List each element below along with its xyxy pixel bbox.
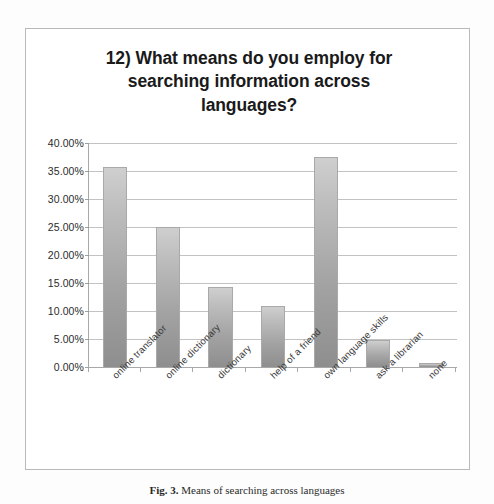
y-axis-tick-label: 5.00%: [54, 333, 84, 345]
figure-caption-label: Fig. 3.: [150, 484, 179, 496]
figure-caption: Fig. 3. Means of searching across langua…: [0, 484, 494, 496]
x-axis-labels: online translatoronline dictionarydictio…: [88, 373, 456, 469]
bar[interactable]: [156, 227, 180, 367]
y-axis-tick-label: 25.00%: [48, 221, 84, 233]
plot-area: [88, 143, 457, 368]
y-axis-labels: 0.00%5.00%10.00%15.00%20.00%25.00%30.00%…: [30, 143, 84, 367]
y-axis-tick-label: 0.00%: [54, 361, 84, 373]
y-axis-tick-label: 40.00%: [48, 137, 84, 149]
y-axis-tick-label: 35.00%: [48, 165, 84, 177]
bar-slot: [89, 143, 142, 367]
bar[interactable]: [103, 167, 127, 367]
y-axis-tick-label: 30.00%: [48, 193, 84, 205]
y-axis-tick-label: 10.00%: [48, 305, 84, 317]
scanned-page: 12) What means do you employ for searchi…: [0, 0, 494, 504]
y-axis-tick-label: 20.00%: [48, 249, 84, 261]
bar-series: [89, 143, 457, 367]
figure-caption-text: Means of searching across languages: [181, 484, 344, 496]
chart-frame: 12) What means do you employ for searchi…: [25, 28, 470, 470]
plot-wrapper: 0.00%5.00%10.00%15.00%20.00%25.00%30.00%…: [26, 29, 471, 471]
y-axis-tick-label: 15.00%: [48, 277, 84, 289]
bar-slot: [247, 143, 300, 367]
